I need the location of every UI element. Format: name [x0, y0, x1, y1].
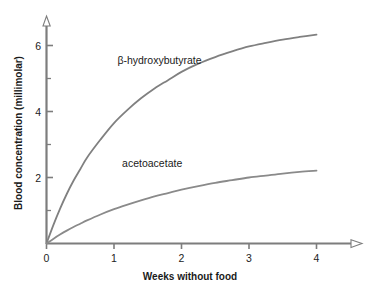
x-tick-label-2: 2	[179, 252, 185, 264]
chart-figure: 6 4 2 0 1 2 3 4 Weeks without food Blood…	[0, 0, 382, 289]
y-axis-arrow-icon	[43, 16, 50, 26]
x-axis-arrow-icon	[351, 240, 362, 248]
y-tick-label-6: 6	[35, 40, 41, 52]
axes-group	[43, 16, 362, 247]
y-tick-label-2: 2	[35, 172, 41, 184]
series-line-beta-hydroxybutyrate	[47, 35, 317, 244]
series-line-acetoacetate	[47, 171, 317, 244]
data-series-group	[47, 35, 317, 244]
series-label-acetoacetate: acetoacetate	[122, 157, 182, 169]
x-axis-tick-labels: 0 1 2 3 4	[44, 252, 320, 264]
x-tick-label-1: 1	[111, 252, 117, 264]
x-tick-label-0: 0	[44, 252, 50, 264]
series-label-beta-hydroxybutyrate: β-hydroxybutyrate	[117, 54, 201, 66]
x-axis-title: Weeks without food	[143, 271, 237, 282]
y-axis-title: Blood concentration (millimolar)	[13, 56, 24, 210]
y-tick-label-4: 4	[35, 106, 41, 118]
chart-canvas: 6 4 2 0 1 2 3 4 Weeks without food Blood…	[0, 0, 382, 289]
x-tick-label-3: 3	[246, 252, 252, 264]
x-tick-label-4: 4	[314, 252, 320, 264]
y-axis-tick-labels: 6 4 2	[35, 40, 41, 184]
